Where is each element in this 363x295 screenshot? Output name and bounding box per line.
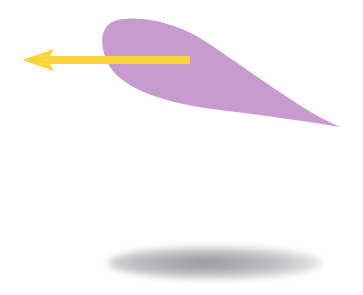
airfoil-shape xyxy=(102,19,340,127)
ground-shadow xyxy=(108,246,322,280)
diagram-canvas xyxy=(0,0,363,295)
